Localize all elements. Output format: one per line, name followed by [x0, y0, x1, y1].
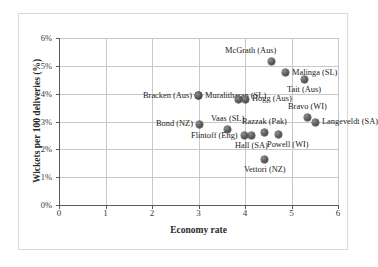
y-tick-mark — [56, 122, 60, 123]
x-tick-label: 5 — [282, 209, 302, 218]
x-tick-label: 2 — [142, 209, 162, 218]
data-point-label: Bond (NZ) — [156, 120, 193, 128]
gridline-vertical — [152, 38, 153, 205]
data-point[interactable] — [235, 96, 242, 103]
gridline-vertical — [292, 38, 293, 205]
data-point[interactable] — [275, 131, 282, 138]
x-tick-label: 0 — [49, 209, 69, 218]
data-point[interactable] — [242, 96, 249, 103]
y-tick-mark — [56, 94, 60, 95]
x-tick-label: 3 — [189, 209, 209, 218]
data-point-label: Flintoff (Eng) — [191, 132, 238, 140]
data-point[interactable] — [301, 76, 308, 83]
x-axis-title: Economy rate — [59, 225, 338, 235]
data-point[interactable] — [248, 132, 255, 139]
data-point[interactable] — [241, 132, 248, 139]
data-point-label: Powell (WI) — [267, 141, 309, 149]
y-tick-mark — [56, 177, 60, 178]
y-tick-mark — [56, 38, 60, 39]
data-point-label: Malinga (SL) — [292, 69, 337, 77]
data-point-label: Hall (SA) — [235, 142, 268, 150]
data-point-label: Bracken (Aus) — [143, 92, 192, 100]
data-point[interactable] — [261, 156, 268, 163]
data-point-label: McGrath (Aus) — [225, 47, 276, 55]
data-point-label: Razzak (Pak) — [242, 118, 287, 126]
data-point[interactable] — [195, 92, 202, 99]
data-point-label: Langeveldt (SA) — [322, 118, 378, 126]
data-point-label: Vettori (NZ) — [244, 166, 286, 174]
data-point[interactable] — [312, 119, 319, 126]
data-point[interactable] — [282, 69, 289, 76]
gridline-vertical — [106, 38, 107, 205]
y-axis-title: Wickets per 100 deliveries (%) — [32, 36, 42, 206]
data-point[interactable] — [196, 121, 203, 128]
x-tick-label: 4 — [235, 209, 255, 218]
data-point[interactable] — [268, 58, 275, 65]
data-point-label: Tait (Aus) — [287, 86, 321, 94]
y-tick-mark — [56, 66, 60, 67]
x-tick-label: 1 — [96, 209, 116, 218]
data-point[interactable] — [261, 129, 268, 136]
data-point-label: Vaas (SL) — [211, 115, 244, 123]
data-point-label: Bravo (WI) — [288, 103, 327, 111]
y-tick-mark — [56, 149, 60, 150]
data-point-label: Hogg (Aus) — [252, 95, 292, 103]
y-tick-mark — [56, 205, 60, 206]
x-tick-label: 6 — [328, 209, 348, 218]
data-point[interactable] — [304, 114, 311, 121]
